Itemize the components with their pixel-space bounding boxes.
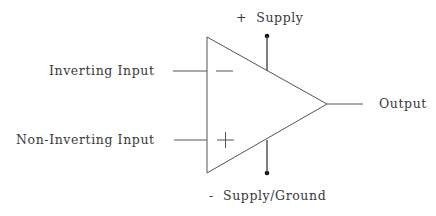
positive-supply-label: + Supply xyxy=(236,10,304,25)
inverting-input-label: Inverting Input xyxy=(49,63,155,78)
negative-supply-label: - Supply/Ground xyxy=(209,188,326,203)
non-inverting-input-label: Non-Inverting Input xyxy=(16,132,155,147)
output-label: Output xyxy=(379,96,427,111)
op-amp-diagram: + Supply - Supply/Ground Inverting Input… xyxy=(0,0,436,216)
